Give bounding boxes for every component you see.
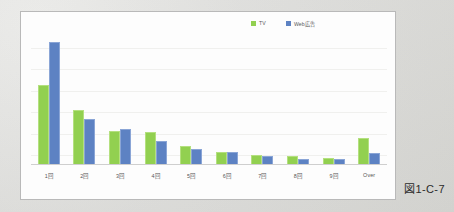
bar-web[interactable] (334, 159, 345, 164)
bar-web[interactable] (49, 42, 60, 164)
bar-group (280, 26, 316, 164)
x-axis-label: 8回 (280, 167, 316, 187)
x-axis-label: 9回 (316, 167, 352, 187)
x-axis-label: 7回 (245, 167, 281, 187)
x-axis-label: Over (351, 167, 387, 187)
plot-area: 1回2回3回4回5回6回7回8回9回Over (31, 26, 387, 189)
bar-group (316, 26, 352, 164)
bar-web[interactable] (227, 152, 238, 164)
bar-web[interactable] (120, 129, 131, 164)
bar-web[interactable] (262, 156, 273, 164)
bar-tv[interactable] (287, 156, 298, 164)
figure-caption: 図1-C-7 (404, 180, 445, 196)
bar-group (138, 26, 174, 164)
x-axis-label: 3回 (102, 167, 138, 187)
bar-group (31, 26, 67, 164)
x-axis-labels: 1回2回3回4回5回6回7回8回9回Over (31, 167, 387, 187)
x-axis-label: 1回 (31, 167, 67, 187)
bar-group (209, 26, 245, 164)
bar-tv[interactable] (180, 146, 191, 164)
x-axis-label: 6回 (209, 167, 245, 187)
bar-tv[interactable] (358, 138, 369, 164)
bar-web[interactable] (298, 159, 309, 164)
bar-groups (31, 26, 387, 164)
bar-tv[interactable] (73, 110, 84, 164)
bar-group (245, 26, 281, 164)
bar-web[interactable] (84, 119, 95, 164)
bar-group (351, 26, 387, 164)
square-marker-icon (251, 21, 256, 26)
x-axis-label: 4回 (138, 167, 174, 187)
bar-web[interactable] (369, 153, 380, 164)
x-axis-line (31, 164, 387, 165)
bar-tv[interactable] (109, 131, 120, 164)
x-axis-label: 5回 (173, 167, 209, 187)
bar-group (102, 26, 138, 164)
bar-tv[interactable] (38, 85, 49, 164)
chart-panel: TV Web広告 1回2回3回4回5回6回7回8回9回Over (20, 11, 396, 200)
bar-tv[interactable] (145, 132, 156, 164)
bar-tv[interactable] (251, 155, 262, 164)
x-axis-label: 2回 (67, 167, 103, 187)
bar-group (67, 26, 103, 164)
bar-tv[interactable] (323, 158, 334, 164)
bar-tv[interactable] (216, 152, 227, 164)
bar-group (173, 26, 209, 164)
bar-web[interactable] (191, 149, 202, 164)
square-marker-icon (286, 21, 291, 26)
bar-web[interactable] (156, 141, 167, 164)
